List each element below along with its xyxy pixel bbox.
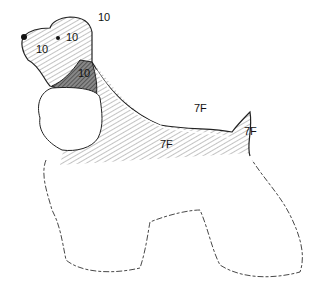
label-tail: 7F <box>244 126 257 137</box>
skirt-outline <box>44 160 303 277</box>
label-head-top: 10 <box>66 32 78 43</box>
nose-icon <box>21 34 27 40</box>
label-skull: 10 <box>98 12 110 23</box>
label-back-top: 7F <box>194 103 207 114</box>
label-body-side: 7F <box>160 139 173 150</box>
label-throat: 10 <box>78 68 90 79</box>
ear-fluff <box>39 87 103 150</box>
label-muzzle: 10 <box>36 44 48 55</box>
eye-icon <box>56 36 60 40</box>
